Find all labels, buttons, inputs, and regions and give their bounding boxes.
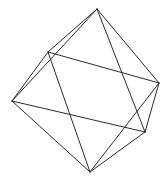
octahedron-figure (0, 0, 167, 179)
octahedron-wireframe-svg (0, 0, 167, 179)
